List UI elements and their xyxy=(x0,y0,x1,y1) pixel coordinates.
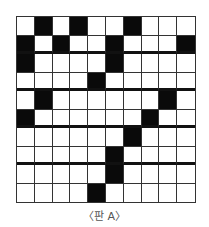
empty-cell xyxy=(70,110,88,129)
empty-cell xyxy=(17,91,35,110)
empty-cell xyxy=(53,54,71,73)
empty-cell xyxy=(177,128,195,147)
empty-cell xyxy=(17,17,35,36)
empty-cell xyxy=(124,110,142,129)
empty-cell xyxy=(142,165,160,184)
filled-cell xyxy=(53,36,71,55)
empty-cell xyxy=(106,73,124,92)
empty-cell xyxy=(159,17,177,36)
empty-cell xyxy=(53,17,71,36)
empty-cell xyxy=(142,91,160,110)
filled-cell xyxy=(88,184,106,203)
empty-cell xyxy=(53,73,71,92)
empty-cell xyxy=(142,73,160,92)
filled-cell xyxy=(17,110,35,129)
empty-cell xyxy=(124,54,142,73)
filled-cell xyxy=(106,36,124,55)
filled-cell xyxy=(124,128,142,147)
empty-cell xyxy=(17,184,35,203)
empty-cell xyxy=(53,128,71,147)
empty-cell xyxy=(88,128,106,147)
empty-cell xyxy=(88,17,106,36)
empty-cell xyxy=(53,165,71,184)
filled-cell xyxy=(124,17,142,36)
filled-cell xyxy=(88,73,106,92)
filled-cell xyxy=(142,110,160,129)
empty-cell xyxy=(106,128,124,147)
empty-cell xyxy=(53,184,71,203)
empty-cell xyxy=(70,147,88,166)
empty-cell xyxy=(159,54,177,73)
empty-cell xyxy=(177,91,195,110)
empty-cell xyxy=(17,128,35,147)
empty-cell xyxy=(35,36,53,55)
empty-cell xyxy=(70,165,88,184)
filled-cell xyxy=(106,147,124,166)
empty-cell xyxy=(88,110,106,129)
filled-cell xyxy=(17,54,35,73)
empty-cell xyxy=(70,54,88,73)
empty-cell xyxy=(142,54,160,73)
empty-cell xyxy=(177,17,195,36)
empty-cell xyxy=(177,73,195,92)
filled-cell xyxy=(35,91,53,110)
empty-cell xyxy=(70,128,88,147)
empty-cell xyxy=(53,147,71,166)
filled-cell xyxy=(106,54,124,73)
empty-cell xyxy=(142,147,160,166)
empty-cell xyxy=(177,184,195,203)
empty-cell xyxy=(159,147,177,166)
empty-cell xyxy=(35,73,53,92)
empty-cell xyxy=(124,36,142,55)
empty-cell xyxy=(124,147,142,166)
empty-cell xyxy=(124,184,142,203)
empty-cell xyxy=(70,36,88,55)
empty-cell xyxy=(88,165,106,184)
filled-cell xyxy=(177,36,195,55)
empty-cell xyxy=(70,184,88,203)
empty-cell xyxy=(159,128,177,147)
empty-cell xyxy=(17,147,35,166)
empty-cell xyxy=(124,165,142,184)
empty-cell xyxy=(124,91,142,110)
empty-cell xyxy=(106,184,124,203)
empty-cell xyxy=(53,110,71,129)
empty-cell xyxy=(159,165,177,184)
empty-cell xyxy=(88,147,106,166)
empty-cell xyxy=(35,184,53,203)
empty-cell xyxy=(124,73,142,92)
filled-cell xyxy=(17,36,35,55)
empty-cell xyxy=(142,184,160,203)
empty-cell xyxy=(35,110,53,129)
empty-cell xyxy=(159,36,177,55)
empty-cell xyxy=(70,91,88,110)
empty-cell xyxy=(106,17,124,36)
empty-cell xyxy=(88,54,106,73)
empty-cell xyxy=(35,54,53,73)
empty-cell xyxy=(35,128,53,147)
empty-cell xyxy=(159,73,177,92)
empty-cell xyxy=(159,110,177,129)
empty-cell xyxy=(70,73,88,92)
empty-cell xyxy=(17,165,35,184)
empty-cell xyxy=(106,110,124,129)
empty-cell xyxy=(88,36,106,55)
board-caption: 〈판 A〉 xyxy=(0,207,209,223)
filled-cell xyxy=(70,17,88,36)
filled-cell xyxy=(159,91,177,110)
empty-cell xyxy=(177,165,195,184)
empty-cell xyxy=(177,54,195,73)
grid-board-a xyxy=(16,16,196,203)
empty-cell xyxy=(106,91,124,110)
empty-cell xyxy=(35,165,53,184)
empty-cell xyxy=(142,36,160,55)
filled-cell xyxy=(106,165,124,184)
empty-cell xyxy=(142,17,160,36)
empty-cell xyxy=(53,91,71,110)
empty-cell xyxy=(159,184,177,203)
empty-cell xyxy=(177,147,195,166)
empty-cell xyxy=(177,110,195,129)
filled-cell xyxy=(35,17,53,36)
empty-cell xyxy=(17,73,35,92)
empty-cell xyxy=(88,91,106,110)
